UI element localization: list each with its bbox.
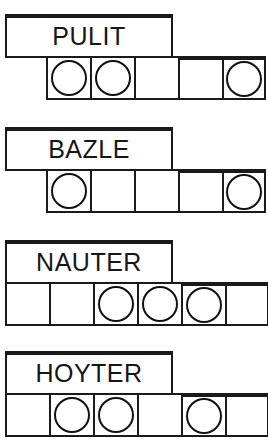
word-label-box: BAZLE: [5, 127, 173, 171]
phoneme-cell[interactable]: [5, 282, 49, 326]
phoneme-cell[interactable]: [181, 393, 225, 437]
phoneme-cell-strip: [46, 169, 266, 213]
phoneme-cell[interactable]: [222, 169, 266, 213]
phoneme-cell-strip: [5, 282, 268, 326]
word-text: NAUTER: [36, 250, 142, 275]
worksheet-canvas: PULITBAZLENAUTERHOYTER: [0, 0, 268, 445]
phoneme-cell[interactable]: [178, 56, 222, 100]
phoneme-cell[interactable]: [93, 282, 137, 326]
phoneme-cell[interactable]: [222, 56, 266, 100]
phoneme-cell[interactable]: [181, 282, 225, 326]
phoneme-cell[interactable]: [225, 393, 268, 437]
phoneme-cell[interactable]: [134, 169, 178, 213]
phoneme-cell[interactable]: [46, 169, 90, 213]
phoneme-cell[interactable]: [49, 282, 93, 326]
word-text: BAZLE: [48, 137, 130, 162]
circle-token-icon[interactable]: [98, 286, 134, 322]
circle-token-icon[interactable]: [226, 174, 262, 210]
word-label-box: NAUTER: [5, 240, 173, 284]
phoneme-cell[interactable]: [225, 282, 268, 326]
circle-token-icon[interactable]: [186, 398, 222, 434]
circle-token-icon[interactable]: [51, 173, 87, 209]
circle-token-icon[interactable]: [51, 60, 87, 96]
phoneme-cell[interactable]: [49, 393, 93, 437]
phoneme-cell[interactable]: [93, 393, 137, 437]
phoneme-cell[interactable]: [137, 282, 181, 326]
phoneme-cell[interactable]: [134, 56, 178, 100]
circle-token-icon[interactable]: [95, 60, 131, 96]
phoneme-cell[interactable]: [90, 56, 134, 100]
phoneme-cell[interactable]: [46, 56, 90, 100]
phoneme-cell[interactable]: [137, 393, 181, 437]
circle-token-icon[interactable]: [226, 61, 262, 97]
circle-token-icon[interactable]: [54, 397, 90, 433]
word-text: PULIT: [52, 24, 125, 49]
circle-token-icon[interactable]: [142, 286, 178, 322]
word-label-box: PULIT: [5, 14, 173, 58]
circle-token-icon[interactable]: [98, 397, 134, 433]
phoneme-cell[interactable]: [178, 169, 222, 213]
phoneme-cell-strip: [46, 56, 266, 100]
word-text: HOYTER: [35, 361, 142, 386]
phoneme-cell[interactable]: [90, 169, 134, 213]
circle-token-icon[interactable]: [186, 287, 222, 323]
word-label-box: HOYTER: [5, 351, 173, 395]
phoneme-cell[interactable]: [5, 393, 49, 437]
phoneme-cell-strip: [5, 393, 268, 437]
